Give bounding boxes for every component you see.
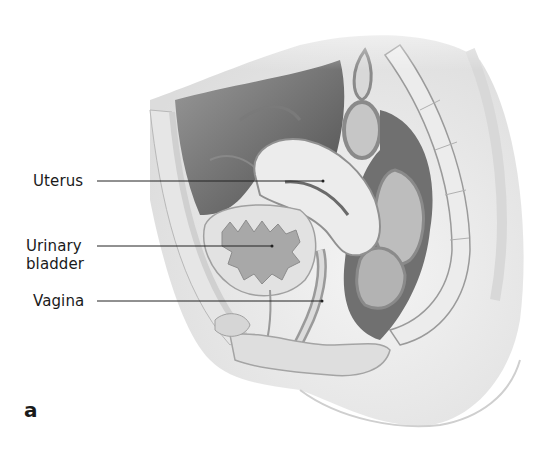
label-uterus: Uterus (33, 172, 83, 190)
pelvic-sagittal-section-illustration (0, 0, 549, 458)
label-vagina: Vagina (33, 292, 84, 310)
label-urinary: Urinary (26, 237, 82, 255)
label-bladder: bladder (26, 255, 84, 273)
panel-letter: a (24, 398, 38, 422)
